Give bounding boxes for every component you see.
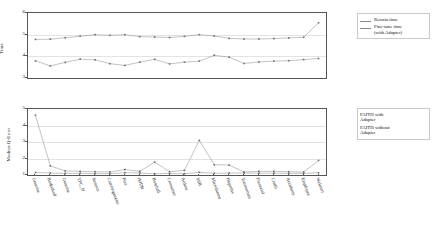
legend-item-finetune-time: Fine-tune time (with Adapter) — [360, 24, 426, 35]
series-line — [35, 115, 318, 172]
data-point-marker — [169, 37, 171, 39]
x-axis-label: Consumer — [166, 177, 177, 196]
data-point-marker — [154, 161, 156, 163]
bottom-chart-y-axis-label: Median Q-Error — [6, 128, 11, 162]
legend-line-icon — [360, 28, 371, 29]
data-point-marker — [228, 38, 230, 40]
data-point-marker — [50, 38, 52, 40]
data-point-marker — [109, 63, 111, 65]
data-point-marker — [303, 59, 305, 61]
top-chart-series-layer — [28, 13, 328, 80]
data-point-marker — [318, 58, 320, 60]
legend-label: FAITH with Adapter — [360, 112, 384, 123]
data-point-marker — [139, 61, 141, 63]
x-tick-mark — [273, 174, 274, 176]
x-tick-mark — [109, 174, 110, 176]
x-tick-mark — [303, 174, 304, 176]
data-point-marker — [258, 61, 260, 63]
data-point-marker — [154, 36, 156, 38]
bottom-chart-legend: FAITH with Adapter FAITH without Adapter — [357, 108, 430, 140]
y-tick-label: 4 — [15, 122, 25, 127]
y-tick-label: 3 — [15, 138, 25, 143]
x-axis-label: Credit — [270, 177, 279, 190]
x-axis-label: Microbiome — [211, 177, 223, 200]
x-tick-mark — [213, 174, 214, 176]
data-point-marker — [124, 169, 126, 171]
legend-item-retrain-time: Retrain time — [360, 17, 426, 22]
x-axis-label: Employee — [300, 177, 311, 196]
data-point-marker — [243, 63, 245, 65]
x-axis-label: Pisa — [121, 177, 128, 186]
median-q-error-chart: Median Q-Error 12345 GenomeBasketballGen… — [0, 103, 355, 230]
data-point-marker — [124, 34, 126, 36]
data-point-marker — [94, 34, 96, 36]
data-point-marker — [184, 36, 186, 38]
legend-label: FAITH without Adapter — [360, 125, 390, 136]
x-axis-label: Genome — [32, 177, 42, 193]
series-line — [35, 172, 318, 173]
legend-label: Retrain time — [374, 17, 398, 22]
data-point-marker — [124, 65, 126, 67]
data-point-marker — [243, 171, 245, 173]
data-point-marker — [64, 37, 66, 39]
top-chart-y-axis-label: Time — [0, 43, 4, 54]
x-axis-label: TPC_H — [76, 177, 86, 192]
data-point-marker — [303, 171, 305, 173]
x-tick-mark — [318, 174, 319, 176]
data-point-marker — [273, 38, 275, 40]
data-point-marker — [184, 61, 186, 63]
data-point-marker — [228, 56, 230, 58]
data-point-marker — [139, 36, 141, 38]
x-tick-mark — [94, 174, 95, 176]
data-point-marker — [288, 60, 290, 62]
x-tick-mark — [228, 174, 229, 176]
y-tick-label: 4 — [15, 52, 25, 57]
data-point-marker — [35, 39, 37, 41]
x-tick-mark — [198, 174, 199, 176]
x-axis-label: Carcinogenesis — [106, 177, 120, 205]
data-point-marker — [228, 164, 230, 166]
x-tick-mark — [183, 174, 184, 176]
x-axis-label: SSB — [196, 177, 203, 186]
data-point-marker — [50, 65, 52, 67]
bottom-chart-plot-area — [27, 108, 327, 176]
data-point-marker — [79, 171, 81, 173]
data-point-marker — [64, 62, 66, 64]
data-point-marker — [169, 171, 171, 173]
data-point-marker — [243, 38, 245, 40]
y-tick-label: 3 — [15, 74, 25, 79]
x-tick-mark — [124, 174, 125, 176]
data-point-marker — [94, 59, 96, 61]
data-point-marker — [79, 35, 81, 37]
data-point-marker — [94, 171, 96, 173]
x-tick-mark — [243, 174, 244, 176]
data-point-marker — [50, 165, 52, 167]
data-point-marker — [79, 58, 81, 60]
data-point-marker — [199, 172, 201, 174]
training-time-chart: Time 3456 Retrain time Fine-tune time (w… — [0, 0, 355, 100]
x-axis-label: Airline — [181, 177, 190, 191]
x-axis-label: IMDB — [136, 177, 145, 190]
data-point-marker — [213, 54, 215, 56]
bottom-chart-series-layer — [28, 109, 328, 177]
legend-item-faith-without-adapter: FAITH without Adapter — [360, 125, 426, 136]
y-tick-label: 2 — [15, 155, 25, 160]
x-axis-label: Sensors — [91, 177, 101, 192]
x-tick-mark — [288, 174, 289, 176]
data-point-marker — [184, 170, 186, 172]
x-tick-mark — [169, 174, 170, 176]
data-point-marker — [35, 114, 37, 116]
x-axis-label: Accidents — [285, 177, 296, 196]
data-point-marker — [213, 164, 215, 166]
data-point-marker — [258, 171, 260, 173]
data-point-marker — [199, 34, 201, 36]
x-axis-label: Basketball — [47, 177, 58, 197]
x-tick-mark — [258, 174, 259, 176]
data-point-marker — [318, 160, 320, 162]
x-axis-label: Genome — [62, 177, 72, 193]
y-tick-label: 5 — [15, 31, 25, 36]
data-point-marker — [288, 37, 290, 39]
data-point-marker — [109, 35, 111, 37]
data-point-marker — [35, 60, 37, 62]
x-tick-mark — [139, 174, 140, 176]
